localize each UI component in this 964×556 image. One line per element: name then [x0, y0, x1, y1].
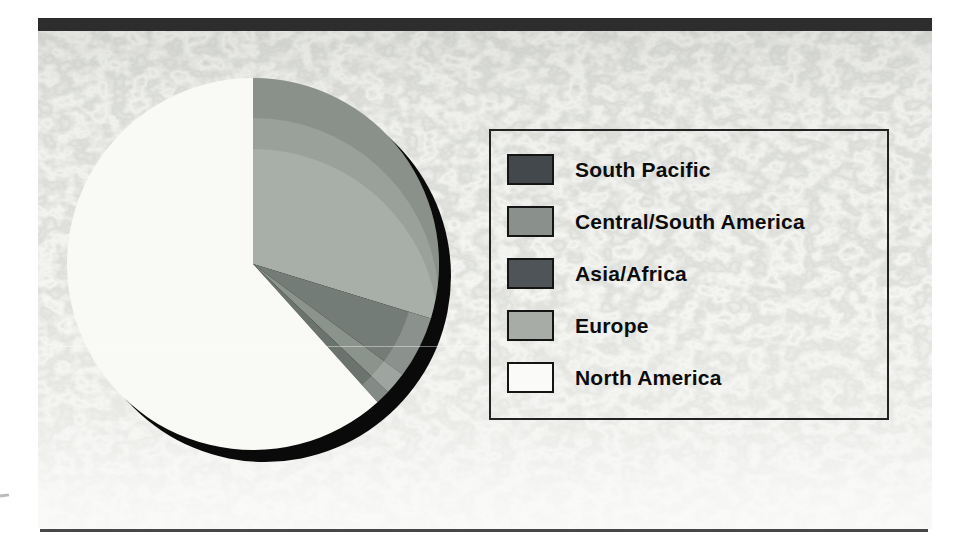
- bottom-rule-bar: [40, 529, 928, 532]
- legend: South Pacific Central/South America Asia…: [489, 129, 889, 420]
- legend-swatch-central-south-america: [507, 206, 554, 237]
- legend-item-europe: Europe: [507, 310, 649, 341]
- legend-swatch-north-america: [507, 362, 554, 393]
- scan-artifact-line: [55, 346, 489, 347]
- legend-label-asia-africa: Asia/Africa: [575, 258, 687, 289]
- legend-label-europe: Europe: [575, 310, 649, 341]
- legend-item-north-america: North America: [507, 362, 722, 393]
- top-rule-bar: [38, 18, 932, 31]
- legend-item-asia-africa: Asia/Africa: [507, 258, 687, 289]
- legend-swatch-south-pacific: [507, 154, 554, 185]
- legend-label-south-pacific: South Pacific: [575, 154, 711, 185]
- legend-label-central-south-america: Central/South America: [575, 206, 805, 237]
- legend-swatch-asia-africa: [507, 258, 554, 289]
- legend-swatch-europe: [507, 310, 554, 341]
- legend-item-central-south-america: Central/South America: [507, 206, 805, 237]
- scan-artifact-mark: [0, 493, 9, 497]
- legend-label-north-america: North America: [575, 362, 722, 393]
- legend-item-south-pacific: South Pacific: [507, 154, 711, 185]
- figure: South Pacific Central/South America Asia…: [0, 0, 964, 556]
